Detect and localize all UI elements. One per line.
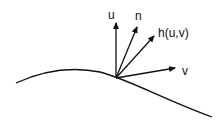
label-n: n xyxy=(135,9,142,23)
label-u: u xyxy=(108,8,115,22)
label-v: v xyxy=(182,64,188,78)
surface-vector-diagram: u n h(u,v) v xyxy=(0,0,219,123)
vector-h xyxy=(116,36,154,78)
vector-n xyxy=(116,27,137,78)
vector-v xyxy=(116,68,175,78)
label-h: h(u,v) xyxy=(158,26,189,40)
